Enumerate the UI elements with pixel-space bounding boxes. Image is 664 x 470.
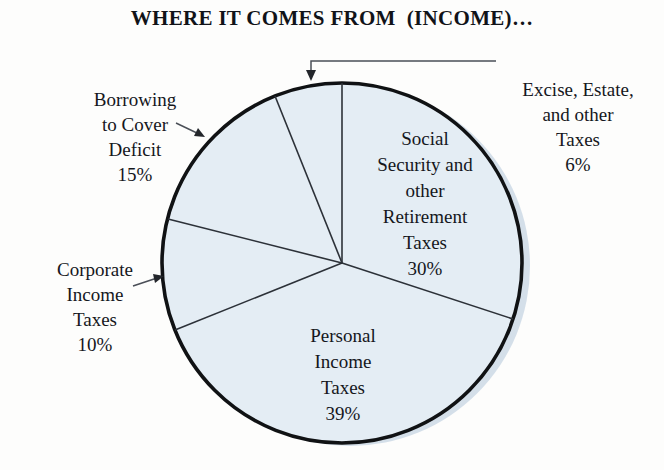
slice-label-social-security-text: Social Security and other Retirement Tax… bbox=[377, 128, 473, 253]
slice-value-social-security: 30% bbox=[360, 256, 490, 282]
slice-label-borrowing-deficit-text: Borrowing to Cover Deficit bbox=[94, 89, 176, 160]
slice-label-borrowing-deficit: Borrowing to Cover Deficit 15% bbox=[60, 62, 210, 212]
pie-chart-figure: WHERE IT COMES FROM (INCOME)… Borrowing … bbox=[0, 0, 664, 470]
slice-label-excise-estate-text: Excise, Estate, and other Taxes bbox=[522, 79, 633, 150]
slice-label-excise-estate: Excise, Estate, and other Taxes 6% bbox=[498, 52, 658, 202]
slice-label-personal-income-text: Personal Income Taxes bbox=[310, 325, 375, 398]
slice-value-personal-income: 39% bbox=[278, 401, 408, 427]
slice-label-corporate-income-text: Corporate Income Taxes bbox=[57, 259, 133, 330]
excise-leader-line bbox=[311, 61, 496, 72]
slice-label-corporate-income: Corporate Income Taxes 10% bbox=[20, 232, 170, 382]
slice-value-borrowing-deficit: 15% bbox=[60, 162, 210, 187]
slice-value-excise-estate: 6% bbox=[498, 152, 658, 177]
slice-label-social-security: Social Security and other Retirement Tax… bbox=[360, 100, 490, 308]
excise-arrowhead bbox=[306, 70, 316, 81]
slice-value-corporate-income: 10% bbox=[20, 332, 170, 357]
slice-label-personal-income: Personal Income Taxes 39% bbox=[278, 297, 408, 453]
